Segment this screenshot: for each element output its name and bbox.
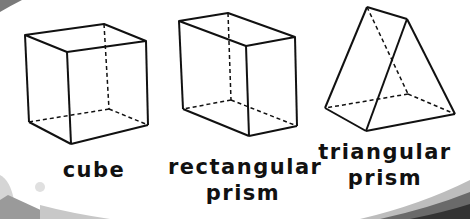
cube-label: cube (54, 157, 134, 183)
triangular-prism-label: triangular prism (315, 139, 455, 191)
cube-figure (25, 24, 148, 144)
rectangular-prism-figure (179, 13, 297, 136)
triangular-prism-figure (325, 7, 455, 131)
rectangular-prism-label: rectangular prism (168, 154, 318, 206)
